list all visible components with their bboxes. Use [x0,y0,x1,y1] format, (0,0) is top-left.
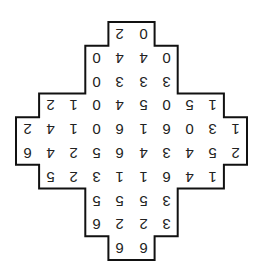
grid-cell: 2 [108,212,131,236]
grid-cell: 6 [155,117,178,141]
grid-cell: 3 [108,70,131,94]
grid-cell: 3 [132,70,155,94]
grid-cell: 2 [16,117,39,141]
grid-cell: 2 [39,93,62,117]
grid-cell: 0 [132,22,155,46]
grid-cell: 2 [108,22,131,46]
grid-cell: 0 [155,93,178,117]
grid-cell: 4 [132,46,155,70]
grid-cell: 3 [155,189,178,213]
grid-cell: 3 [155,212,178,236]
grid-cell: 2 [224,141,247,165]
grid-cell: 5 [132,189,155,213]
grid-cell: 2 [132,212,155,236]
grid-cell: 6 [108,117,131,141]
grid-cell: 0 [85,117,108,141]
grid-cell: 0 [85,93,108,117]
grid-cell: 5 [201,141,224,165]
grid-cell: 6 [155,165,178,189]
grid-cell: 6 [132,236,155,260]
grid-cell: 3 [85,165,108,189]
grid-cell: 1 [201,93,224,117]
grid-cell: 6 [16,141,39,165]
grid-cell: 4 [178,165,201,189]
grid-cell: 5 [178,93,201,117]
grid-cell: 0 [85,70,108,94]
puzzle-board: 2004400333210450512410616031642564345252… [16,22,247,260]
grid-cell: 0 [155,46,178,70]
grid-cell: 6 [108,236,131,260]
grid-cell: 3 [155,141,178,165]
grid-cell: 2 [62,141,85,165]
grid-cell: 4 [178,141,201,165]
grid-cell: 1 [201,165,224,189]
grid-cell: 4 [39,141,62,165]
grid-cell: 0 [178,117,201,141]
grid-cell: 3 [201,117,224,141]
grid-cell: 5 [132,93,155,117]
grid-cell: 4 [132,141,155,165]
grid-cell: 0 [85,46,108,70]
grid-cell: 1 [132,117,155,141]
grid-cell: 6 [85,212,108,236]
grid-cell: 4 [108,93,131,117]
grid-cell: 4 [39,117,62,141]
grid-cell: 1 [62,117,85,141]
grid-cell: 1 [132,165,155,189]
grid-cell: 5 [108,189,131,213]
grid-cell: 5 [39,165,62,189]
grid-cell: 2 [62,165,85,189]
grid-cell: 4 [108,46,131,70]
grid-cell: 3 [155,70,178,94]
grid-cell: 1 [62,93,85,117]
grid-cell: 1 [108,165,131,189]
grid-cell: 1 [224,117,247,141]
grid-cell: 5 [85,189,108,213]
grid-cell: 6 [108,141,131,165]
grid-cell: 5 [85,141,108,165]
